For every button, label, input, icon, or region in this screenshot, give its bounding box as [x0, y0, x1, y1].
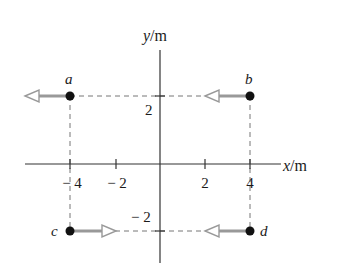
point-label-d: d [260, 223, 268, 239]
x-axis-var: x [282, 157, 290, 174]
point-c [66, 227, 75, 236]
arrow-b-left-icon [205, 90, 250, 102]
point-d [246, 227, 255, 236]
y-axis-unit: /m [150, 27, 167, 44]
arrow-a-left-icon [25, 90, 70, 102]
y-axis-label: y/m [141, 27, 168, 45]
arrow-c-right-icon [70, 225, 116, 237]
point-a [66, 92, 75, 101]
x-tick-label-neg4: − 4 [62, 175, 82, 191]
arrow-d-left-icon [205, 225, 250, 237]
y-tick-label-2: 2 [145, 102, 153, 118]
x-tick-label-2: 2 [201, 175, 209, 191]
x-axis-label: x/m [282, 157, 308, 174]
x-tick-label-neg2: − 2 [107, 175, 127, 191]
point-label-a: a [65, 71, 73, 87]
coordinate-diagram: a b c d − 4 − 2 2 4 2 − 2 x/m y/m [0, 0, 344, 277]
x-tick-label-4: 4 [246, 175, 254, 191]
x-axis-unit: /m [290, 157, 307, 174]
y-tick-label-neg2: − 2 [131, 209, 151, 225]
point-b [246, 92, 255, 101]
point-label-b: b [245, 71, 253, 87]
point-label-c: c [51, 223, 58, 239]
